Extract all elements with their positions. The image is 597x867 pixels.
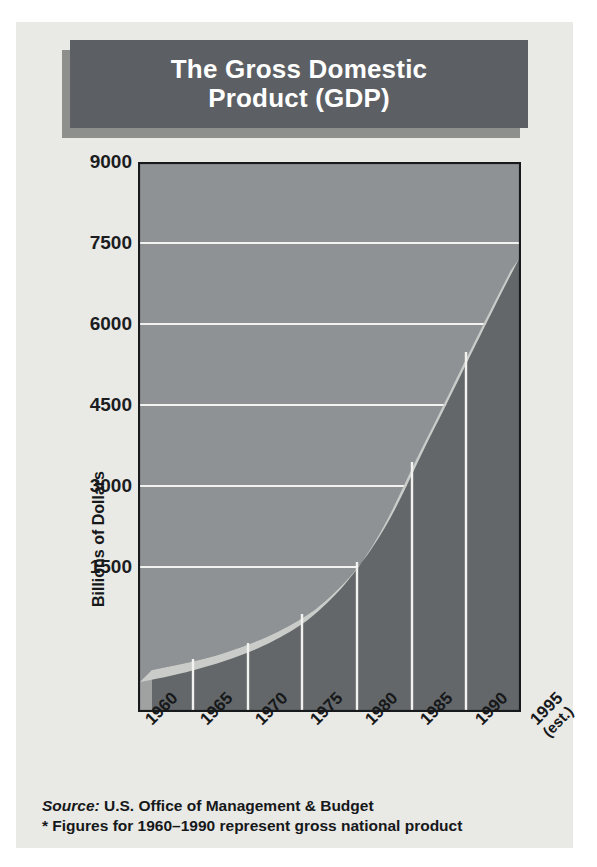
- title-banner: The Gross Domestic Product (GDP): [70, 40, 528, 128]
- y-tick-4500: 4500: [90, 394, 132, 416]
- title-line-1: The Gross Domestic: [171, 54, 427, 84]
- y-tick-7500: 7500: [90, 232, 132, 254]
- y-tick-9000: 9000: [90, 151, 132, 173]
- footnote-note: * Figures for 1960–1990 represent gross …: [42, 816, 542, 836]
- y-axis: 9000 7500 6000 4500 3000 1500 Billions o…: [44, 150, 132, 730]
- page-title: The Gross Domestic Product (GDP): [161, 55, 437, 113]
- title-line-2: Product (GDP): [208, 83, 390, 113]
- y-tick-6000: 6000: [90, 313, 132, 335]
- source-label: Source:: [42, 797, 100, 814]
- footnote: Source: U.S. Office of Management & Budg…: [42, 796, 542, 836]
- plot-area: [138, 162, 521, 712]
- x-axis: 1960 1965 1970 1975 1980 1985 1990 1995 …: [138, 716, 538, 796]
- source-text: U.S. Office of Management & Budget: [100, 797, 374, 814]
- chart-page: The Gross Domestic Product (GDP) 9000 75…: [0, 0, 597, 867]
- gdp-area-chart: [138, 162, 521, 712]
- y-axis-title: Billions of Dollars: [90, 424, 108, 654]
